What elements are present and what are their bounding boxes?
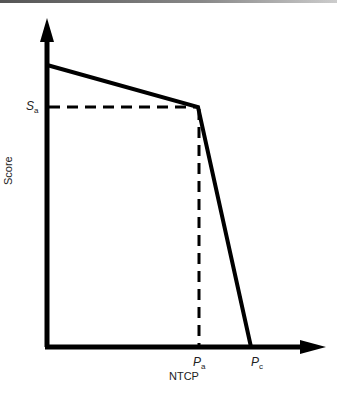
x-axis-label: NTCP <box>169 370 199 382</box>
chart-plot <box>0 0 337 393</box>
pa-label: Pa <box>193 355 205 371</box>
y-axis-label: Score <box>2 156 14 185</box>
y-axis-arrow-icon <box>40 18 54 42</box>
pc-label: Pc <box>251 355 263 371</box>
sa-label: Sa <box>26 99 38 115</box>
x-axis-arrow-icon <box>300 340 326 354</box>
